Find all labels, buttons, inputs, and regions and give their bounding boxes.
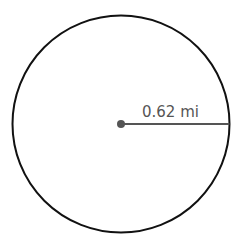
center-point — [117, 120, 125, 128]
radius-label: 0.62 mi — [142, 103, 199, 121]
circle-diagram: 0.62 mi — [0, 0, 244, 243]
